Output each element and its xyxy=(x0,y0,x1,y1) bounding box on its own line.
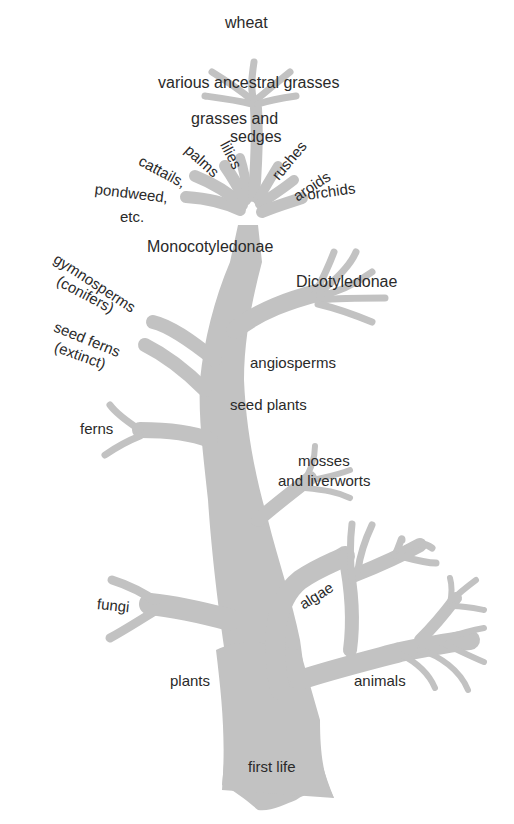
label-mosses: mosses xyxy=(298,452,350,469)
label-liverworts: and liverworts xyxy=(278,472,371,489)
twig-animals-5 xyxy=(400,556,436,563)
label-dicotyledonae: Dicotyledonae xyxy=(296,273,397,290)
twig-mosses-3 xyxy=(305,488,350,498)
label-plants: plants xyxy=(170,672,210,689)
twig-dicot-4 xyxy=(320,298,385,300)
twig-dicot-5 xyxy=(318,304,372,322)
label-ferns: ferns xyxy=(80,420,113,437)
label-first-life: first life xyxy=(248,758,296,775)
branch-ferns xyxy=(140,430,210,440)
label-animals: animals xyxy=(354,672,406,689)
twig-ferns-1 xyxy=(110,405,140,430)
twig-animals-1 xyxy=(351,524,353,580)
label-grasses-and: grasses and xyxy=(191,110,278,127)
label-seed-plants: seed plants xyxy=(230,396,307,413)
label-ancestral-grasses: various ancestral grasses xyxy=(158,74,339,91)
label-wheat: wheat xyxy=(225,14,268,31)
twig-animals-7 xyxy=(452,580,476,600)
label-sedges: sedges xyxy=(230,128,282,145)
label-angiosperms: angiosperms xyxy=(250,354,336,371)
label-etc: etc. xyxy=(120,208,144,225)
label-monocotyledonae: Monocotyledonae xyxy=(147,238,273,255)
label-fungi: fungi xyxy=(96,595,130,615)
twig-ferns-2 xyxy=(105,436,140,455)
twig-animals-8 xyxy=(452,606,484,610)
